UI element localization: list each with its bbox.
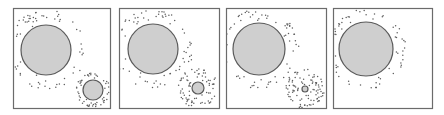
solute-dot bbox=[90, 74, 92, 76]
solute-dot bbox=[248, 12, 250, 14]
solute-dot bbox=[26, 21, 28, 23]
solute-dot bbox=[196, 98, 198, 100]
solute-dot bbox=[223, 56, 225, 58]
solute-dot bbox=[304, 69, 306, 71]
solute-dot bbox=[289, 96, 291, 98]
solute-dot bbox=[288, 81, 290, 83]
solute-dot bbox=[221, 38, 223, 40]
solute-dot bbox=[169, 23, 171, 25]
solute-dot bbox=[92, 105, 94, 107]
solute-dot bbox=[198, 73, 200, 75]
solute-dot bbox=[234, 23, 236, 25]
solute-dot bbox=[188, 99, 190, 101]
solute-dot bbox=[307, 105, 309, 107]
solute-dot bbox=[152, 87, 154, 89]
solute-dot bbox=[117, 53, 119, 55]
solute-dot bbox=[308, 75, 310, 77]
solute-dot bbox=[317, 76, 319, 78]
solute-dot bbox=[165, 15, 167, 17]
solute-dot bbox=[254, 82, 256, 84]
solute-dot bbox=[82, 53, 84, 55]
solute-dot bbox=[28, 21, 30, 23]
solute-dot bbox=[160, 83, 162, 85]
solute-dot bbox=[330, 57, 332, 59]
solute-dot bbox=[45, 80, 47, 82]
solute-dot bbox=[388, 68, 390, 70]
solute-dot bbox=[191, 69, 193, 71]
solute-dot bbox=[209, 92, 211, 94]
solute-dot bbox=[294, 77, 296, 79]
solute-dot bbox=[209, 83, 211, 85]
solute-dot bbox=[81, 54, 83, 56]
solute-dot bbox=[288, 92, 290, 94]
solute-dot bbox=[59, 83, 61, 85]
solute-dot bbox=[41, 15, 43, 16]
solute-dot bbox=[268, 81, 270, 83]
solute-dot bbox=[155, 80, 157, 82]
solute-dot bbox=[214, 96, 216, 98]
solute-dot bbox=[229, 28, 231, 30]
solute-dot bbox=[39, 83, 41, 85]
solute-dot bbox=[321, 85, 323, 87]
solute-dot bbox=[305, 95, 307, 97]
solute-dot bbox=[49, 88, 51, 90]
solute-dot bbox=[208, 102, 210, 104]
solute-dot bbox=[103, 80, 105, 82]
solute-dot bbox=[258, 18, 260, 20]
small-particle bbox=[302, 86, 308, 92]
solute-dot bbox=[323, 92, 325, 94]
solute-dot bbox=[396, 51, 398, 53]
solute-dot bbox=[95, 74, 97, 76]
solute-dot bbox=[404, 47, 406, 49]
solute-dot bbox=[289, 40, 291, 42]
solute-dot bbox=[180, 92, 182, 94]
solute-dot bbox=[175, 70, 177, 72]
solute-dot bbox=[191, 55, 193, 57]
solute-dot bbox=[316, 83, 318, 85]
solute-dot bbox=[137, 17, 139, 19]
solute-dot bbox=[94, 77, 96, 79]
solute-dot bbox=[402, 50, 404, 52]
solute-dot bbox=[79, 80, 81, 82]
solute-dot bbox=[190, 82, 192, 84]
solute-dot bbox=[174, 20, 176, 22]
solute-dot bbox=[79, 30, 81, 32]
solute-dot bbox=[348, 84, 350, 86]
solute-dot bbox=[57, 16, 59, 18]
solute-dot bbox=[403, 40, 405, 42]
solute-dot bbox=[97, 76, 99, 78]
solute-dot bbox=[395, 36, 397, 38]
solute-dot bbox=[129, 71, 131, 73]
solute-dot bbox=[197, 76, 199, 78]
solute-dot bbox=[315, 94, 317, 96]
solute-dot bbox=[139, 76, 141, 78]
solute-dot bbox=[404, 41, 406, 43]
solute-dot bbox=[241, 13, 243, 15]
solute-dot bbox=[295, 44, 297, 46]
solute-dot bbox=[202, 75, 204, 77]
solute-dot bbox=[312, 83, 314, 85]
solute-dot bbox=[16, 35, 18, 37]
solute-dot bbox=[205, 72, 207, 74]
solute-dot bbox=[184, 61, 186, 63]
solute-dot bbox=[348, 81, 350, 83]
solute-dot bbox=[7, 41, 9, 43]
solute-dot bbox=[135, 83, 137, 85]
solute-dot bbox=[308, 98, 310, 100]
solute-dot bbox=[32, 21, 34, 23]
solute-dot bbox=[395, 25, 397, 27]
solute-dot bbox=[312, 76, 314, 78]
solute-dot bbox=[292, 92, 294, 94]
solute-dot bbox=[182, 98, 184, 100]
solute-dot bbox=[11, 69, 13, 71]
solute-dot bbox=[338, 76, 340, 78]
solute-dot bbox=[189, 84, 191, 86]
solute-dot bbox=[335, 34, 337, 36]
solute-dot bbox=[16, 68, 18, 70]
solute-dot bbox=[203, 72, 205, 74]
solute-dot bbox=[375, 87, 377, 89]
solute-dot bbox=[336, 71, 338, 73]
solute-dot bbox=[313, 100, 315, 102]
solute-dot bbox=[79, 99, 81, 101]
solute-dot bbox=[341, 28, 343, 30]
